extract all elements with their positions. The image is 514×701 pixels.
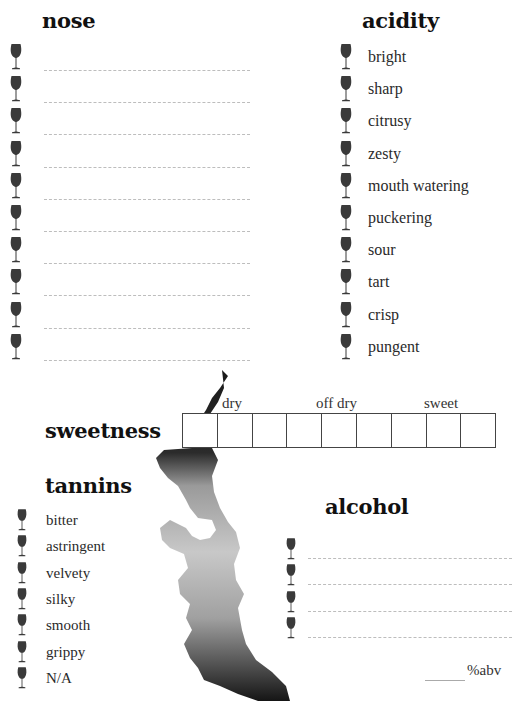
wine-glass-icon bbox=[10, 44, 22, 70]
nose-entry-line[interactable] bbox=[44, 263, 250, 264]
wine-glass-icon bbox=[286, 538, 296, 560]
wine-glass-icon bbox=[17, 588, 27, 610]
acidity-item[interactable]: pungent bbox=[368, 338, 420, 356]
tannins-item[interactable]: velvety bbox=[46, 565, 90, 582]
nose-heading: nose bbox=[42, 8, 95, 33]
abv-label: %abv bbox=[467, 662, 501, 679]
sweetness-heading: sweetness bbox=[45, 418, 161, 443]
wine-glass-icon bbox=[17, 562, 27, 584]
sweetness-scale bbox=[182, 413, 496, 448]
wine-glass-icon bbox=[10, 108, 22, 134]
scale-label-off-dry: off dry bbox=[316, 395, 357, 412]
acidity-item[interactable]: crisp bbox=[368, 306, 399, 324]
acidity-item[interactable]: puckering bbox=[368, 209, 432, 227]
nose-entry-line[interactable] bbox=[44, 199, 250, 200]
tannins-item[interactable]: smooth bbox=[46, 617, 90, 634]
wine-glass-icon bbox=[10, 334, 22, 360]
sweetness-checkbox[interactable] bbox=[392, 414, 427, 447]
alcohol-entry-line[interactable] bbox=[308, 584, 512, 585]
nose-entry-line[interactable] bbox=[44, 70, 250, 71]
scale-label-sweet: sweet bbox=[424, 395, 458, 412]
acidity-item[interactable]: mouth watering bbox=[368, 177, 469, 195]
alcohol-heading: alcohol bbox=[325, 494, 409, 519]
acidity-heading: acidity bbox=[362, 8, 439, 33]
wine-glass-icon bbox=[340, 173, 352, 199]
wine-glass-icon bbox=[340, 302, 352, 328]
wine-glass-icon bbox=[17, 614, 27, 636]
nose-entry-line[interactable] bbox=[44, 360, 250, 361]
wine-glass-icon bbox=[286, 617, 296, 639]
acidity-item[interactable]: bright bbox=[368, 48, 406, 66]
wine-glass-icon bbox=[17, 535, 27, 557]
wine-glass-icon bbox=[340, 141, 352, 167]
wine-glass-icon bbox=[17, 667, 27, 689]
sweetness-checkbox[interactable] bbox=[183, 414, 218, 447]
wine-glass-icon bbox=[340, 76, 352, 102]
sweetness-checkbox[interactable] bbox=[357, 414, 392, 447]
tannins-item[interactable]: astringent bbox=[46, 538, 105, 555]
acidity-item[interactable]: sour bbox=[368, 241, 396, 259]
wine-glass-icon bbox=[340, 108, 352, 134]
wine-glass-icon bbox=[340, 205, 352, 231]
alcohol-entry-line[interactable] bbox=[308, 637, 512, 638]
wine-glass-icon bbox=[286, 564, 296, 586]
wine-glass-icon bbox=[10, 205, 22, 231]
tannins-item[interactable]: silky bbox=[46, 591, 75, 608]
sweetness-checkbox[interactable] bbox=[427, 414, 462, 447]
nose-entry-line[interactable] bbox=[44, 134, 250, 135]
alcohol-entry-line[interactable] bbox=[308, 558, 512, 559]
sweetness-checkbox[interactable] bbox=[461, 414, 496, 447]
nose-entry-line[interactable] bbox=[44, 102, 250, 103]
nose-entry-line[interactable] bbox=[44, 295, 250, 296]
sweetness-checkbox[interactable] bbox=[253, 414, 288, 447]
wine-glass-icon bbox=[10, 269, 22, 295]
acidity-item[interactable]: zesty bbox=[368, 145, 401, 163]
acidity-item[interactable]: tart bbox=[368, 273, 389, 291]
wine-glass-icon bbox=[340, 237, 352, 263]
acidity-item[interactable]: sharp bbox=[368, 80, 403, 98]
nose-entry-line[interactable] bbox=[44, 328, 250, 329]
tannins-item[interactable]: grippy bbox=[46, 644, 85, 661]
abv-input-line[interactable] bbox=[425, 680, 465, 681]
wine-glass-icon bbox=[10, 173, 22, 199]
tannins-item[interactable]: bitter bbox=[46, 512, 78, 529]
scale-label-dry: dry bbox=[222, 395, 242, 412]
wine-glass-icon bbox=[340, 269, 352, 295]
tannins-item[interactable]: N/A bbox=[46, 670, 72, 687]
wine-glass-icon bbox=[10, 141, 22, 167]
wine-glass-icon bbox=[340, 44, 352, 70]
wine-glass-icon bbox=[286, 591, 296, 613]
wine-glass-icon bbox=[340, 334, 352, 360]
nose-entry-line[interactable] bbox=[44, 167, 250, 168]
sweetness-checkbox[interactable] bbox=[322, 414, 357, 447]
wine-glass-icon bbox=[17, 509, 27, 531]
wine-glass-icon bbox=[10, 237, 22, 263]
sweetness-checkbox[interactable] bbox=[287, 414, 322, 447]
nose-entry-line[interactable] bbox=[44, 231, 250, 232]
sweetness-checkbox[interactable] bbox=[218, 414, 253, 447]
wine-glass-icon bbox=[10, 302, 22, 328]
wine-glass-icon bbox=[17, 641, 27, 663]
tannins-heading: tannins bbox=[45, 473, 132, 498]
wine-glass-icon bbox=[10, 76, 22, 102]
acidity-item[interactable]: citrusy bbox=[368, 112, 412, 130]
alcohol-entry-line[interactable] bbox=[308, 611, 512, 612]
